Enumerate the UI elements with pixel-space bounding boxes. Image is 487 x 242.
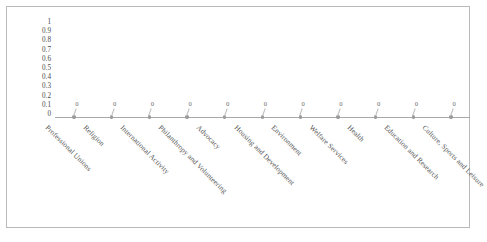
- y-axis-tick-label: 0.4: [15, 74, 51, 81]
- category-axis-label: Culture, Sports and Leisure: [421, 123, 487, 189]
- y-axis-tick-label: 0: [15, 111, 51, 118]
- y-axis-tick-label: 0.8: [15, 37, 51, 44]
- data-point-label: 0: [302, 100, 305, 107]
- y-axis-tick-label: 0.2: [15, 93, 51, 100]
- data-point-label: 0: [188, 100, 191, 107]
- category-axis-label: Environment: [270, 123, 304, 157]
- category-axis-label: Welfare Services: [308, 123, 351, 166]
- chart-frame: 10.90.80.70.60.50.40.30.20.10 0000000000…: [6, 6, 470, 228]
- y-axis-tick-label: 1: [15, 19, 51, 26]
- data-point-label: 0: [151, 100, 154, 107]
- y-axis-tick-label: 0.5: [15, 65, 51, 72]
- category-axis-label: Health: [345, 123, 366, 144]
- y-axis-tick-label: 0.3: [15, 83, 51, 90]
- y-axis-tick-labels: 10.90.80.70.60.50.40.30.20.10: [15, 19, 51, 121]
- chart-screenshot: 10.90.80.70.60.50.40.30.20.10 0000000000…: [0, 0, 487, 242]
- data-point-label: 0: [452, 100, 455, 107]
- category-axis-label: Religion: [81, 123, 106, 148]
- plot-area: [49, 17, 467, 117]
- category-axis-label: Advocacy: [194, 123, 222, 151]
- category-axis-label: Philanthropy and Volunteering: [157, 123, 229, 195]
- y-axis-tick-label: 0.6: [15, 56, 51, 63]
- data-point-label: 0: [377, 100, 380, 107]
- data-point-label: 0: [415, 100, 418, 107]
- data-point-label: 0: [339, 100, 342, 107]
- data-point-label: 0: [75, 100, 78, 107]
- y-axis-tick-label: 0.1: [15, 102, 51, 109]
- data-point-label: 0: [226, 100, 229, 107]
- data-point-label: 0: [113, 100, 116, 107]
- y-axis-tick-label: 0.9: [15, 28, 51, 35]
- data-point-label: 0: [264, 100, 267, 107]
- y-axis-tick-label: 0.7: [15, 47, 51, 54]
